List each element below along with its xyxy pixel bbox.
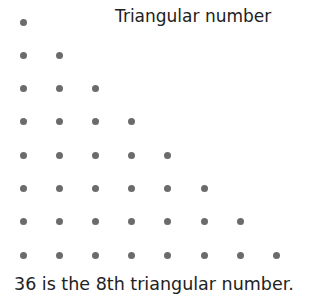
dot (164, 252, 171, 259)
dot (56, 52, 63, 59)
dot (201, 252, 208, 259)
dot (56, 218, 63, 225)
dot (128, 252, 135, 259)
dot (128, 152, 135, 159)
dot (92, 152, 99, 159)
dot (56, 252, 63, 259)
dot (164, 185, 171, 192)
dot (92, 118, 99, 125)
dot (56, 118, 63, 125)
dot (237, 252, 244, 259)
dot (92, 252, 99, 259)
dot (128, 218, 135, 225)
dot (20, 152, 27, 159)
dot (92, 218, 99, 225)
dot (20, 52, 27, 59)
dot (164, 152, 171, 159)
dot (56, 85, 63, 92)
diagram-caption: 36 is the 8th triangular number. (14, 274, 294, 294)
dot (92, 85, 99, 92)
dot (201, 218, 208, 225)
dot (20, 185, 27, 192)
dot (164, 218, 171, 225)
dot-triangle (0, 0, 318, 270)
dot (201, 185, 208, 192)
dot (20, 118, 27, 125)
dot (56, 185, 63, 192)
dot (128, 185, 135, 192)
dot (273, 252, 280, 259)
dot (20, 19, 27, 26)
dot (92, 185, 99, 192)
dot (128, 118, 135, 125)
dot (56, 152, 63, 159)
dot (20, 252, 27, 259)
dot (237, 218, 244, 225)
dot (20, 85, 27, 92)
dot (20, 218, 27, 225)
